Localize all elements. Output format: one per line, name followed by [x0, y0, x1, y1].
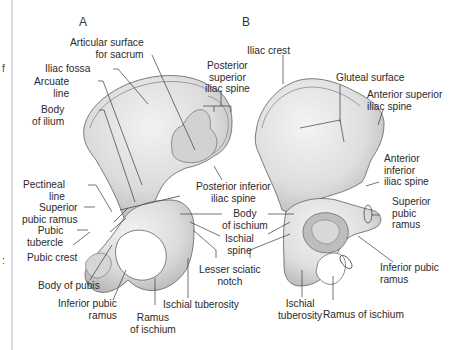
label-pubic-tubercle: Pubic tubercle: [27, 225, 63, 248]
edge-fragment: f: [2, 63, 5, 74]
label-posterior-superior-iliac-spine: Posterior superior iliac spine: [205, 60, 250, 95]
hip-bone-diagram: f : A B Articular surface for sacrum Ili…: [0, 0, 470, 350]
label-inferior-pubic-ramus-a: Inferior pubic ramus: [58, 298, 117, 321]
label-anterior-superior-iliac-spine: Anterior superior iliac spine: [367, 89, 442, 112]
label-superior-pubic-ramus-b: Superior pubic ramus: [392, 196, 431, 231]
label-articular-surface-for-sacrum: Articular surface for sacrum: [70, 37, 144, 60]
label-lesser-sciatic-notch: Lesser sciatic notch: [199, 264, 261, 287]
label-iliac-crest: Iliac crest: [247, 45, 290, 57]
label-pubic-crest: Pubic crest: [27, 252, 77, 264]
hip-bone-lateral-view: [255, 79, 384, 286]
label-body-of-ilium: Body of ilium: [32, 104, 64, 127]
label-gluteal-surface: Gluteal surface: [336, 72, 405, 84]
label-ramus-of-ischium-a: Ramus of ischium: [130, 312, 176, 335]
label-pectineal-line: Pectineal line: [23, 179, 65, 202]
panel-label-a: A: [79, 15, 87, 29]
label-superior-pubic-ramus-a: Superior pubic ramus: [22, 202, 78, 225]
label-ischial-spine: Ischial spine: [225, 233, 254, 256]
label-body-of-pubis: Body of pubis: [38, 280, 100, 292]
label-ischial-tuberosity-a: Ischial tuberosity: [163, 299, 239, 311]
edge-fragment: :: [2, 255, 5, 266]
label-ramus-of-ischium-b: Ramus of ischium: [323, 309, 404, 321]
label-ischial-tuberosity-b: Ischial tuberosity: [278, 298, 322, 321]
panel-label-b: B: [242, 15, 250, 29]
label-arcuate-line: Arcuate line: [34, 76, 69, 99]
label-posterior-inferior-iliac-spine: Posterior inferior iliac spine: [196, 181, 271, 204]
label-body-of-ischium: Body of ischium: [222, 208, 268, 231]
label-inferior-pubic-ramus-b: Inferior pubic ramus: [380, 262, 439, 285]
label-iliac-fossa: Iliac fossa: [45, 63, 90, 75]
label-anterior-inferior-iliac-spine: Anterior inferior iliac spine: [384, 153, 429, 188]
